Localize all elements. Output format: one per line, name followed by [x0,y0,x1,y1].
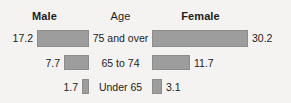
table-row: 7.7 65 to 74 11.7 [0,51,291,74]
male-side-row-3: 1.7 [0,74,89,99]
male-bar-row-1 [37,30,89,47]
category-cell-row-1: 75 and over [89,25,152,51]
chart-rows: 17.2 75 and over 30.2 7.7 65 to 74 11. [0,25,291,99]
chart-header-row: Male Age Female [0,9,291,23]
male-value-row-1: 17.2 [13,32,33,44]
category-label-row-3: Under 65 [99,81,142,93]
female-bar-row-3 [152,79,162,94]
female-side-row-2: 11.7 [152,51,291,74]
header-label-female: Female [152,9,249,23]
female-side-row-1: 30.2 [152,25,291,51]
category-label-row-2: 65 to 74 [102,57,140,69]
female-bar-row-1 [152,30,248,47]
header-label-age: Age [89,9,152,23]
female-value-row-3: 3.1 [166,81,181,93]
category-cell-row-3: Under 65 [89,74,152,99]
female-value-row-1: 30.2 [252,32,272,44]
table-row: 17.2 75 and over 30.2 [0,25,291,51]
male-value-row-2: 7.7 [45,57,60,69]
female-side-row-3: 3.1 [152,74,291,99]
female-value-row-2: 11.7 [194,57,214,69]
female-bar-row-2 [152,55,190,70]
table-row: 1.7 Under 65 3.1 [0,74,291,99]
header-label-male: Male [0,9,89,23]
category-label-row-1: 75 and over [93,32,148,44]
male-side-row-2: 7.7 [0,51,89,74]
population-pyramid-chart: Male Age Female 17.2 75 and over 30.2 7.… [0,0,291,103]
category-cell-row-2: 65 to 74 [89,51,152,74]
male-value-row-3: 1.7 [63,81,78,93]
male-bar-row-2 [64,55,89,70]
male-bar-row-3 [82,79,89,94]
male-side-row-1: 17.2 [0,25,89,51]
